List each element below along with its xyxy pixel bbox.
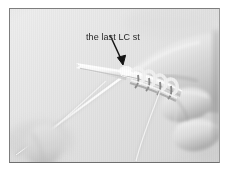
arrow-head (117, 55, 125, 65)
annotation-label: the last LC st (86, 32, 140, 43)
photograph: the last LC st (10, 9, 219, 162)
photo-frame: the last LC st (9, 8, 220, 163)
figure-photo-with-annotation: the last LC st (0, 0, 229, 174)
